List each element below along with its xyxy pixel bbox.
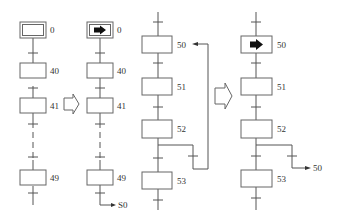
step-box (87, 98, 113, 113)
panel-3: 50 51 52 53 (142, 12, 208, 210)
equivalence-arrow-icon (64, 94, 79, 114)
step-box (20, 98, 46, 113)
step-label: 40 (117, 66, 127, 76)
step-label: 49 (50, 173, 60, 183)
step-box (142, 36, 172, 53)
step-box (20, 63, 46, 78)
step-box (87, 170, 113, 185)
step-label: 52 (277, 124, 286, 134)
panel-2: S0 0 40 41 49 (87, 22, 128, 210)
step-box (142, 120, 172, 138)
step-label: 51 (277, 82, 286, 92)
jump-arrow-icon (111, 203, 116, 207)
step-label: 52 (177, 124, 186, 134)
loop-arrow-icon (192, 42, 198, 46)
equivalence-arrow-icon (215, 83, 232, 109)
step-box (20, 170, 46, 185)
jump-arrow-icon (305, 166, 311, 170)
step-label: 51 (177, 82, 186, 92)
step-label: 49 (117, 173, 127, 183)
step-label: 41 (50, 101, 59, 111)
step-label: 50 (277, 40, 287, 50)
step-label: 0 (50, 25, 55, 35)
jump-label: S0 (118, 200, 128, 210)
step-box (241, 170, 272, 187)
step-label: 0 (117, 25, 122, 35)
step-label: 40 (50, 66, 60, 76)
sfc-diagram: 0 40 41 49 S0 0 40 41 (0, 0, 339, 224)
step-box (142, 78, 172, 95)
step-box (87, 63, 113, 78)
step-label: 50 (177, 40, 187, 50)
panel-4: 50 50 51 52 53 (241, 12, 323, 210)
step-label: 41 (117, 101, 126, 111)
step-label: 53 (177, 176, 187, 186)
step-box (241, 120, 272, 138)
step-box (142, 172, 172, 189)
step-box (241, 78, 272, 95)
step-label: 53 (277, 174, 287, 184)
jump-label: 50 (313, 163, 323, 173)
panel-1: 0 40 41 49 (20, 22, 60, 205)
